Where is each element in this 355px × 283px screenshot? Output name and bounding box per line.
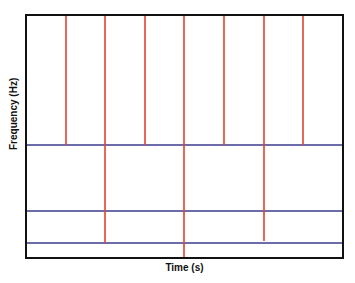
- time-frequency-diagram: [0, 0, 355, 283]
- x-axis-label: Time (s): [0, 262, 355, 273]
- y-axis-label: Frequency (Hz): [8, 130, 19, 150]
